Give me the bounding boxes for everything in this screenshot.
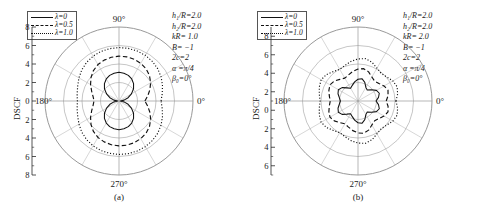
svg-text:2: 2 [264,124,268,134]
svg-text:2: 2 [25,115,29,125]
svg-text:0°: 0° [197,96,206,106]
svg-text:270°: 270° [349,179,367,189]
figure-container: DSCF (a) λ=0 λ=0.5 λ=1.0 h₁/R=2.0 h₂/R=2… [0,0,477,208]
svg-text:4: 4 [25,133,30,143]
svg-text:6: 6 [264,50,268,60]
svg-text:8: 8 [25,170,29,180]
svg-text:6: 6 [25,152,29,162]
svg-text:90°: 90° [113,14,126,24]
svg-text:2: 2 [264,87,268,97]
svg-text:2: 2 [25,78,29,88]
svg-text:180°: 180° [35,96,53,106]
svg-text:8: 8 [264,31,268,41]
svg-text:4: 4 [264,142,269,152]
polar-plot-b: 8642024690°0°270°180° [239,0,477,208]
svg-text:180°: 180° [274,96,292,106]
svg-text:4: 4 [264,68,269,78]
svg-text:6: 6 [264,161,268,171]
panel-b: DSCF (b) λ=0 λ=0.5 λ=1.0 h₁/R=2.0 h₂/R=2… [239,0,477,208]
svg-text:270°: 270° [110,179,128,189]
panel-a: DSCF (a) λ=0 λ=0.5 λ=1.0 h₁/R=2.0 h₂/R=2… [0,0,238,208]
svg-text:8: 8 [25,22,29,32]
svg-text:0: 0 [25,96,29,106]
svg-text:6: 6 [25,41,29,51]
svg-text:0°: 0° [436,96,445,106]
svg-text:4: 4 [25,59,30,69]
svg-text:0: 0 [264,105,268,115]
polar-plot-a: 86420246890°0°270°180° [0,0,238,208]
svg-text:90°: 90° [352,14,365,24]
